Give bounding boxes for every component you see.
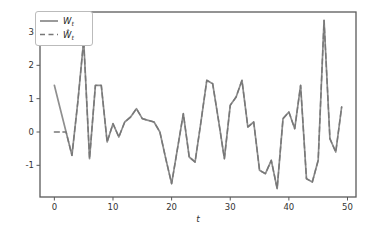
line-chart: 01020304050-10123tWtŴt xyxy=(0,0,376,232)
x-tick-label: 20 xyxy=(166,202,177,212)
x-tick-label: 0 xyxy=(52,202,57,212)
x-tick-label: 10 xyxy=(108,202,119,212)
x-tick-label: 40 xyxy=(283,202,294,212)
figure: 01020304050-10123tWtŴt xyxy=(0,0,376,232)
y-tick-label: 1 xyxy=(29,94,34,104)
y-tick-label: 0 xyxy=(29,127,34,137)
y-tick-label: 2 xyxy=(29,60,34,70)
series-line-W xyxy=(54,20,341,188)
legend: WtŴt xyxy=(36,12,93,46)
y-tick-label: -1 xyxy=(26,160,34,170)
y-tick-label: 3 xyxy=(29,27,34,37)
x-tick-label: 30 xyxy=(225,202,236,212)
x-axis: 01020304050 xyxy=(52,197,353,212)
y-axis: -10123 xyxy=(26,27,40,170)
x-tick-label: 50 xyxy=(342,202,353,212)
x-axis-label: t xyxy=(196,214,200,224)
